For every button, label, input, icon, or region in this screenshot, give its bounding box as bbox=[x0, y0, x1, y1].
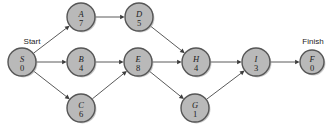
node-duration-label: 0 bbox=[310, 63, 314, 73]
arrow-head-icon bbox=[65, 26, 70, 31]
node-i[interactable]: I3 bbox=[242, 48, 271, 77]
edge-a-to-d bbox=[96, 15, 125, 20]
start-label: Start bbox=[24, 37, 42, 46]
edge-c-to-e bbox=[92, 71, 127, 99]
arrow-head-icon bbox=[119, 60, 124, 65]
network-diagram-canvas: S0A7D5B4E8C6H4G1I3F0 Start Finish bbox=[0, 0, 332, 130]
edge-e-to-h bbox=[153, 60, 182, 65]
node-duration-label: 8 bbox=[136, 63, 140, 73]
node-f[interactable]: F0 bbox=[300, 50, 325, 75]
arrow-head-icon bbox=[120, 15, 125, 20]
edge-g-to-i bbox=[207, 71, 245, 100]
node-s[interactable]: S0 bbox=[8, 48, 37, 77]
node-g[interactable]: G1 bbox=[181, 94, 210, 123]
node-c[interactable]: C6 bbox=[67, 94, 96, 123]
arrow-head-icon bbox=[295, 60, 300, 65]
arrow-head-icon bbox=[240, 71, 245, 76]
edge-e-to-g bbox=[149, 71, 184, 99]
arrow-head-icon bbox=[177, 60, 182, 65]
node-duration-label: 6 bbox=[79, 109, 83, 119]
node-d[interactable]: D5 bbox=[125, 3, 154, 32]
nodes-layer: S0A7D5B4E8C6H4G1I3F0 bbox=[8, 3, 325, 123]
node-duration-label: 0 bbox=[20, 63, 24, 73]
node-duration-label: 5 bbox=[137, 18, 141, 28]
edge-h-to-i bbox=[211, 60, 242, 65]
node-duration-label: 1 bbox=[193, 109, 197, 119]
edge-s-to-b bbox=[37, 60, 67, 65]
edge-i-to-f bbox=[271, 60, 300, 65]
arrow-head-icon bbox=[237, 60, 242, 65]
edge-s-to-c bbox=[33, 71, 69, 99]
finish-label: Finish bbox=[302, 37, 323, 46]
node-e[interactable]: E8 bbox=[124, 48, 153, 77]
network-diagram-svg: S0A7D5B4E8C6H4G1I3F0 Start Finish bbox=[0, 0, 332, 130]
node-a[interactable]: A7 bbox=[67, 3, 96, 32]
node-duration-label: 3 bbox=[254, 63, 258, 73]
arrow-head-icon bbox=[62, 60, 67, 65]
edge-b-to-e bbox=[96, 60, 124, 65]
node-duration-label: 7 bbox=[79, 18, 83, 28]
edge-d-to-h bbox=[150, 26, 184, 53]
node-h[interactable]: H4 bbox=[182, 48, 211, 77]
node-b[interactable]: B4 bbox=[67, 48, 96, 77]
